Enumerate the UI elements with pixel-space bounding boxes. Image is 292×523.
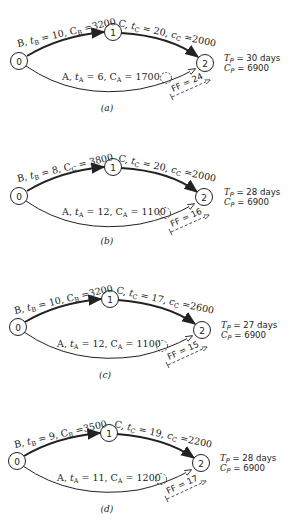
svg-text:1: 1 [110,28,116,38]
svg-text:0: 0 [15,323,21,333]
network-diagram-figure: 0 1 2 B, tB = 10, CB =3200 C, tC = 20, c… [0,0,292,523]
edge-b-label: B, tB = 9, CB =3500 [13,418,108,452]
edge-a-label: A, tA = 11, CA = 1200 [56,472,161,485]
panel-caption: (a) [101,103,114,113]
node-0: 0 [11,188,28,205]
svg-text:2: 2 [202,59,208,69]
panel-caption: (d) [101,504,114,514]
svg-text:1: 1 [107,295,113,305]
panel-caption: (b) [101,236,114,246]
svg-text:1: 1 [106,429,112,439]
node-0: 0 [11,53,28,70]
svg-text:2: 2 [201,193,207,203]
svg-text:0: 0 [16,57,22,67]
node-0: 0 [9,453,26,470]
panel-caption: (c) [99,370,112,380]
svg-text:0: 0 [14,457,20,467]
edge-b-label: B, tB = 10, CB =3200 [13,283,114,318]
node-0: 0 [10,319,27,336]
edge-a-label: A, tA = 6, CA = 1700 [61,71,160,84]
node-2: 2 [196,189,213,206]
edge-b-label: B, tB = 10, CB =3200 [16,16,117,51]
node-2: 2 [197,55,214,72]
edge-a-label: A, tA = 12, CA = 1100 [56,338,161,351]
panel-d: 0 1 2 B, tB = 9, CB =3500 C, tC = 19, cC… [9,418,277,514]
node-2: 2 [193,455,210,472]
free-float-indicator: FF = 15 [157,339,208,368]
free-float-indicator: FF = 24 [161,71,211,100]
panel-b: 0 1 2 B, tB = 8, CC = 3800 C, tC = 20, c… [11,151,281,246]
edge-b-label: B, tB = 8, CC = 3800 [16,151,115,186]
svg-text:2: 2 [198,459,204,469]
panel-c: 0 1 2 B, tB = 10, CB =3200 C, tC = 17, c… [10,283,278,380]
svg-text:0: 0 [16,192,22,202]
node-2: 2 [194,322,211,339]
free-float-indicator: FF = 17 [156,473,207,502]
svg-text:2: 2 [199,326,205,336]
svg-text:1: 1 [110,163,116,173]
panel-a: 0 1 2 B, tB = 10, CB =3200 C, tC = 20, c… [11,16,281,113]
free-float-indicator: FF = 16 [160,206,210,235]
edge-a-label: A, tA = 12, CA = 1100 [61,206,166,219]
